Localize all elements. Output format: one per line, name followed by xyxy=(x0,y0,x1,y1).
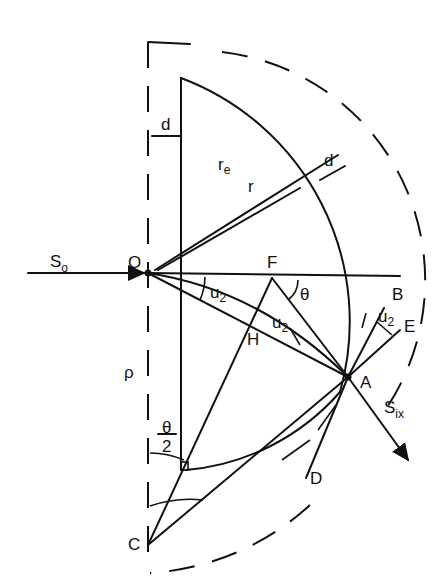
label-h: H xyxy=(247,330,259,349)
theta-arc xyxy=(288,280,298,300)
line-a-d xyxy=(306,377,348,478)
label-d-right: d xyxy=(324,151,333,170)
label-six: Six xyxy=(384,398,404,421)
label-b: B xyxy=(392,285,403,304)
label-f: F xyxy=(267,253,277,272)
label-u2-1: u2 xyxy=(210,283,226,305)
point-a xyxy=(345,374,352,381)
label-theta-half-den: 2 xyxy=(162,437,171,456)
u2-arc-1 xyxy=(200,277,205,300)
optics-diagram: So O F H A B E D C Six ρ d d re r θ θ 2 … xyxy=(0,0,447,578)
label-u2-3: u2 xyxy=(378,307,394,329)
line-f-c xyxy=(148,278,272,545)
line-c-a xyxy=(148,377,348,545)
tangent-dash-2 xyxy=(282,440,310,460)
label-r: r xyxy=(248,177,254,196)
u2-tick-2 xyxy=(290,328,300,345)
ray-o-a-lower xyxy=(148,273,348,377)
label-c: C xyxy=(128,535,140,554)
label-a: A xyxy=(360,373,372,392)
label-s0: So xyxy=(50,252,68,275)
label-theta: θ xyxy=(300,285,309,304)
label-o: O xyxy=(128,253,141,272)
tangent-mark xyxy=(362,313,366,328)
label-d-top: d xyxy=(161,115,170,134)
radii xyxy=(155,155,338,270)
line-a-e xyxy=(348,330,400,377)
sphere-section xyxy=(150,78,350,506)
label-d: D xyxy=(310,469,322,488)
label-rho: ρ xyxy=(124,363,134,382)
label-u2-2: u2 xyxy=(272,313,288,335)
label-e: E xyxy=(404,317,415,336)
horizontal-axis xyxy=(148,273,400,276)
label-re: re xyxy=(218,155,231,177)
